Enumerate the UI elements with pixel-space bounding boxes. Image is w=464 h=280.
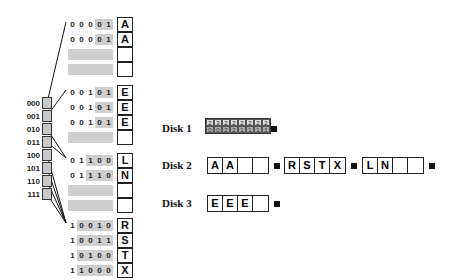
bucket-record xyxy=(117,47,133,62)
disk-1-label: Disk 1 xyxy=(162,122,192,134)
bucket-record xyxy=(117,130,133,145)
bucket-record: E xyxy=(117,100,133,115)
bucket-record: E xyxy=(117,115,133,130)
bucket-record: X xyxy=(117,263,133,278)
hash-bits: 01100 xyxy=(68,155,113,166)
hash-bits: 10011 xyxy=(68,235,113,246)
dir-cell xyxy=(42,162,52,174)
block-end-icon xyxy=(351,163,357,169)
dir-cell xyxy=(42,136,52,148)
hash-bits: 00101 xyxy=(68,102,113,113)
dir-label: 100 xyxy=(18,149,40,162)
disk-block: RSTX xyxy=(284,157,346,174)
disk-block: AA xyxy=(207,157,269,174)
bucket-record: E xyxy=(117,85,133,100)
dir-cell xyxy=(42,149,52,161)
hash-bits xyxy=(68,185,113,196)
hash-bits xyxy=(68,132,113,143)
bucket-record xyxy=(117,62,133,77)
dir-cell xyxy=(42,123,52,135)
block-end-icon xyxy=(274,201,280,207)
hash-bits xyxy=(68,49,113,60)
bucket-record: S xyxy=(117,233,133,248)
hash-bits: 00101 xyxy=(68,87,113,98)
hash-bits: 11000 xyxy=(68,265,113,276)
hash-bits: 10010 xyxy=(68,220,113,231)
disk-1-directory: 2322222200221111 xyxy=(205,118,271,134)
hash-bits: 01110 xyxy=(68,170,113,181)
bucket-record: T xyxy=(117,248,133,263)
hash-bits: 00001 xyxy=(68,34,113,45)
disk-block: EEE xyxy=(207,195,269,212)
dir-label: 101 xyxy=(18,162,40,175)
dir-label: 010 xyxy=(18,123,40,136)
dir-label: 000 xyxy=(18,97,40,110)
bucket-record: N xyxy=(117,168,133,183)
bucket-record: A xyxy=(117,32,133,47)
block-end-icon xyxy=(429,163,435,169)
dir-cell xyxy=(42,188,52,200)
dir-cell xyxy=(42,110,52,122)
dir-cell xyxy=(42,175,52,187)
dir-label: 001 xyxy=(18,110,40,123)
dir-label: 111 xyxy=(18,188,40,201)
hash-bits: 00001 xyxy=(68,19,113,30)
bucket-record xyxy=(117,198,133,213)
dir-label: 011 xyxy=(18,136,40,149)
hash-bits xyxy=(68,64,113,75)
dir-label: 110 xyxy=(18,175,40,188)
hash-bits: 00101 xyxy=(68,117,113,128)
bucket-record: A xyxy=(117,17,133,32)
disk-block: LN xyxy=(362,157,424,174)
disk-3-label: Disk 3 xyxy=(162,197,192,209)
block-end-icon xyxy=(271,126,277,132)
block-end-icon xyxy=(274,163,280,169)
bucket-record xyxy=(117,183,133,198)
bucket-record: R xyxy=(117,218,133,233)
dir-cell xyxy=(42,97,52,109)
disk-2-label: Disk 2 xyxy=(162,159,192,171)
bucket-record: L xyxy=(117,153,133,168)
hash-bits xyxy=(68,200,113,211)
hash-bits: 10100 xyxy=(68,250,113,261)
